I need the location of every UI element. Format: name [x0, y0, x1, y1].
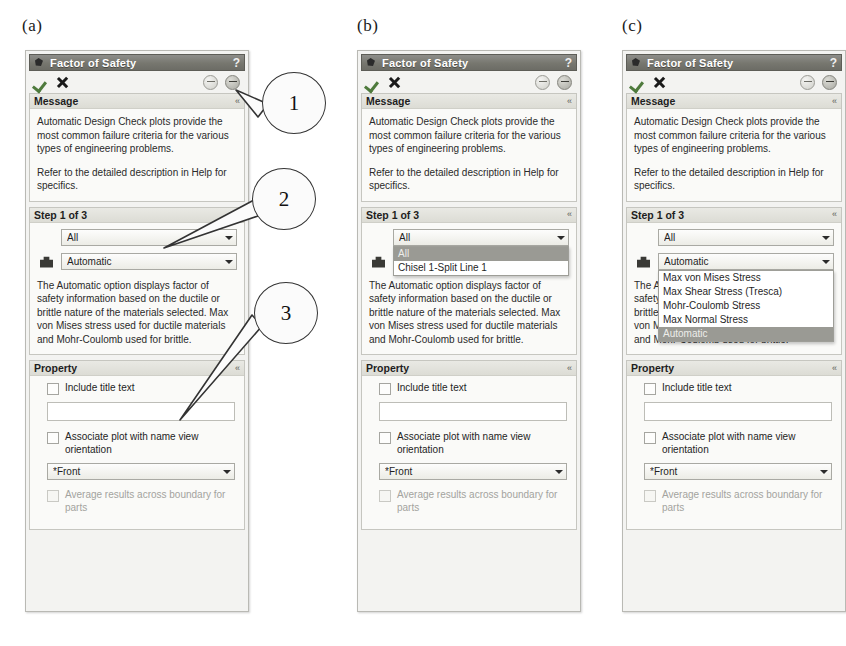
callout-2-tail	[164, 200, 258, 248]
callout-balloon-2: 2	[252, 168, 316, 230]
scope-dropdown-list[interactable]: All Chisel 1-Split Line 1	[393, 246, 569, 276]
criterion-dropdown-option[interactable]: Mohr-Coulomb Stress	[659, 299, 833, 313]
criterion-dropdown-option[interactable]: Max Shear Stress (Tresca)	[659, 285, 833, 299]
criterion-dropdown-option[interactable]: Max von Mises Stress	[659, 271, 833, 285]
criterion-dropdown-list[interactable]: Max von Mises Stress Max Shear Stress (T…	[658, 270, 834, 342]
callout-balloon-1: 1	[262, 72, 326, 134]
scope-dropdown-option[interactable]: Chisel 1-Split Line 1	[394, 261, 568, 275]
criterion-dropdown-option[interactable]: Max Normal Stress	[659, 313, 833, 327]
callout-balloon-3: 3	[254, 282, 318, 344]
callout-3-tail	[180, 315, 262, 420]
criterion-dropdown-option[interactable]: Automatic	[659, 327, 833, 341]
scope-dropdown-option[interactable]: All	[394, 247, 568, 261]
